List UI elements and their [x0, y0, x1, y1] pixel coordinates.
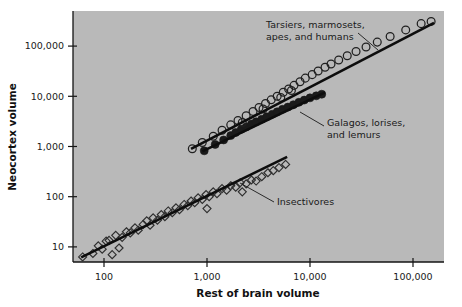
plot-area-background — [73, 11, 444, 262]
x-tick-label: 100 — [95, 271, 113, 282]
annotation-label: apes, and humans — [266, 31, 354, 42]
annotation-label: Insectivores — [277, 196, 334, 207]
x-axis-title: Rest of brain volume — [196, 287, 319, 299]
x-tick-label: 1,000 — [193, 271, 220, 282]
annotation-label: Galagos, lorises, — [327, 117, 405, 128]
y-tick-label: 10,000 — [31, 91, 64, 102]
y-tick-label: 10 — [52, 241, 64, 252]
annotation-label: Tarsiers, marmosets, — [265, 19, 365, 30]
y-axis-title: Neocortex volume — [6, 83, 18, 191]
scatter-plot: 101001,00010,000100,000 1001,00010,00010… — [0, 0, 462, 307]
y-tick-label: 100 — [46, 191, 64, 202]
y-tick-label: 1,000 — [37, 141, 64, 152]
y-tick-label: 100,000 — [25, 40, 64, 51]
x-tick-label: 100,000 — [393, 271, 432, 282]
x-tick-label: 10,000 — [293, 271, 326, 282]
annotation-label: and lemurs — [327, 129, 381, 140]
figure-container: 101001,00010,000100,000 1001,00010,00010… — [0, 0, 462, 307]
